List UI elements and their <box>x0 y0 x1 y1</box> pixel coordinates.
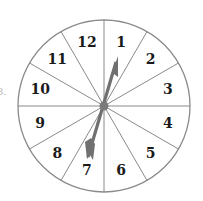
sector-label-9: 9 <box>35 115 45 131</box>
sector-label-10: 10 <box>31 81 51 97</box>
sector-label-1: 1 <box>116 34 126 50</box>
sector-label-2: 2 <box>146 51 156 67</box>
spinner-diagram: 123456789101112 <box>0 0 203 201</box>
sector-label-6: 6 <box>116 162 126 178</box>
sector-label-11: 11 <box>48 51 67 67</box>
spinner-hub <box>100 102 109 111</box>
sector-label-12: 12 <box>77 34 96 50</box>
sector-label-3: 3 <box>163 81 173 97</box>
sector-label-8: 8 <box>52 145 62 161</box>
sector-label-5: 5 <box>146 145 156 161</box>
sector-label-4: 4 <box>163 115 173 131</box>
sector-label-7: 7 <box>82 162 92 178</box>
